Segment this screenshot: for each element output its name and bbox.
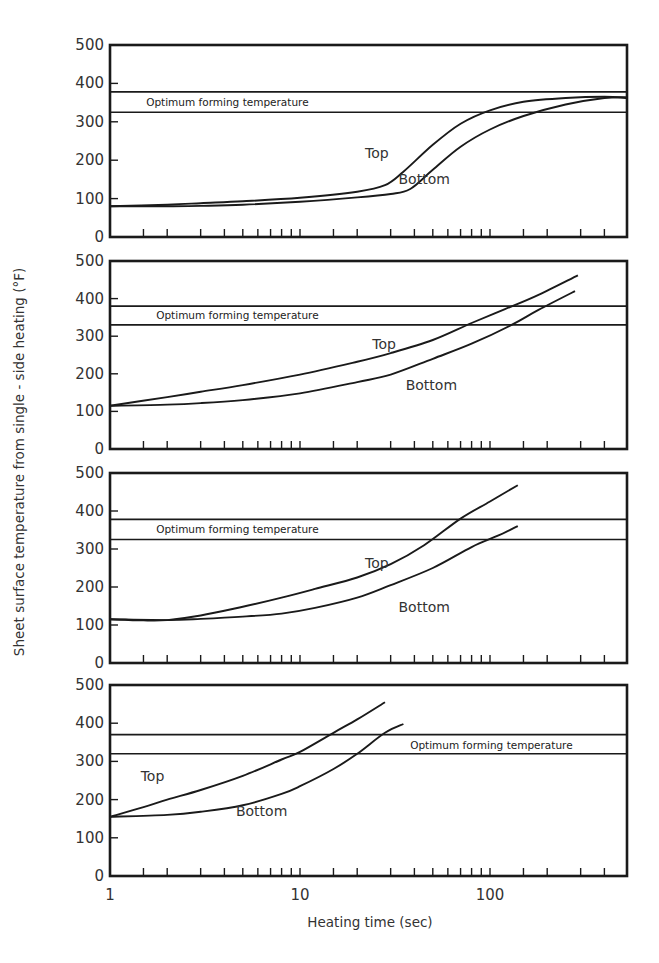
optimum-band-label: Optimum forming temperature	[156, 523, 318, 535]
y-tick-label: 200	[75, 578, 104, 596]
plot-frame	[110, 685, 627, 876]
series-top-line	[110, 275, 578, 406]
series-bottom-label: Bottom	[399, 171, 450, 187]
series-bottom-label: Bottom	[406, 377, 457, 393]
y-tick-label: 100	[75, 402, 104, 420]
optimum-band-label: Optimum forming temperature	[156, 309, 318, 321]
plot-frame	[110, 45, 627, 237]
y-tick-label: 400	[75, 290, 104, 308]
y-tick-label: 100	[75, 616, 104, 634]
y-tick-label: 400	[75, 74, 104, 92]
y-tick-label: 300	[75, 752, 104, 770]
y-tick-label: 200	[75, 791, 104, 809]
series-top-line	[110, 485, 518, 620]
optimum-band-label: Optimum forming temperature	[146, 96, 308, 108]
series-bottom-label: Bottom	[236, 803, 287, 819]
y-tick-label: 300	[75, 540, 104, 558]
y-tick-label: 400	[75, 502, 104, 520]
y-tick-label: 500	[75, 464, 104, 482]
y-tick-label: 500	[75, 252, 104, 270]
series-top-label: Top	[364, 555, 389, 571]
y-tick-label: 500	[75, 36, 104, 54]
series-top-label: Top	[371, 336, 396, 352]
y-tick-label: 300	[75, 327, 104, 345]
y-tick-label: 100	[75, 190, 104, 208]
y-tick-label: 0	[94, 654, 104, 672]
y-tick-label: 200	[75, 151, 104, 169]
x-tick-label: 10	[290, 886, 309, 904]
panel-4: 0100200300400500Optimum forming temperat…	[75, 676, 627, 885]
series-top-label: Top	[140, 768, 165, 784]
panel-2: 0100200300400500Optimum forming temperat…	[75, 252, 627, 458]
x-tick-label: 100	[476, 886, 505, 904]
y-tick-label: 300	[75, 113, 104, 131]
y-axis-title: Sheet surface temperature from single - …	[11, 268, 27, 656]
y-tick-label: 400	[75, 714, 104, 732]
y-tick-label: 0	[94, 440, 104, 458]
chart-figure: 0100200300400500Optimum forming temperat…	[0, 0, 659, 963]
x-axis-title: Heating time (sec)	[307, 914, 432, 930]
panel-3: 0100200300400500Optimum forming temperat…	[75, 464, 627, 672]
optimum-band-label: Optimum forming temperature	[410, 739, 572, 751]
series-top-label: Top	[364, 145, 389, 161]
series-top-line	[110, 702, 385, 817]
y-tick-label: 0	[94, 867, 104, 885]
y-tick-label: 0	[94, 228, 104, 246]
y-tick-label: 200	[75, 365, 104, 383]
y-tick-label: 500	[75, 676, 104, 694]
panel-1: 0100200300400500Optimum forming temperat…	[75, 36, 627, 246]
y-tick-label: 100	[75, 829, 104, 847]
panels: 0100200300400500Optimum forming temperat…	[75, 36, 627, 904]
series-bottom-label: Bottom	[399, 599, 450, 615]
x-tick-label: 1	[105, 886, 115, 904]
